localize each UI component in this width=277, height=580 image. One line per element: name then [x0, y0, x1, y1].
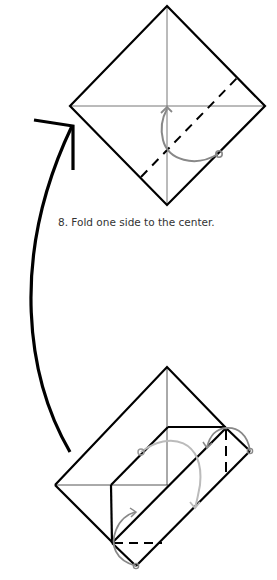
valley-fold-line [141, 78, 237, 177]
large-fold-arrow-icon [141, 441, 200, 507]
step-caption: 8. Fold one side to the center. [0, 216, 277, 228]
fold-arrow-icon [162, 109, 218, 161]
start-diagram-bottom [55, 367, 253, 569]
result-diagram-top [70, 6, 265, 205]
big-arrowhead-icon [34, 120, 73, 170]
bottom-tip-edge [112, 543, 136, 566]
flap-left-edge [111, 427, 168, 485]
transition-arrow [31, 120, 73, 452]
right-lower-edge [136, 451, 250, 566]
big-arrow-shaft [31, 126, 72, 452]
origami-diagram [0, 0, 277, 580]
flap-vertical-edge [111, 485, 112, 543]
left-lower-edge [55, 485, 113, 543]
